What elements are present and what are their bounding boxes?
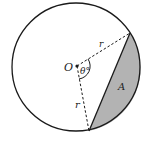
center-label: O	[64, 61, 73, 74]
segment-a-region	[89, 33, 141, 131]
radius-upper-label: r	[99, 39, 104, 49]
circle-segment-diagram: O θ° r r A	[0, 0, 150, 142]
angle-label: θ°	[80, 66, 90, 76]
center-point	[75, 64, 78, 67]
radius-lower-label: r	[75, 99, 81, 110]
segment-label: A	[117, 81, 125, 92]
